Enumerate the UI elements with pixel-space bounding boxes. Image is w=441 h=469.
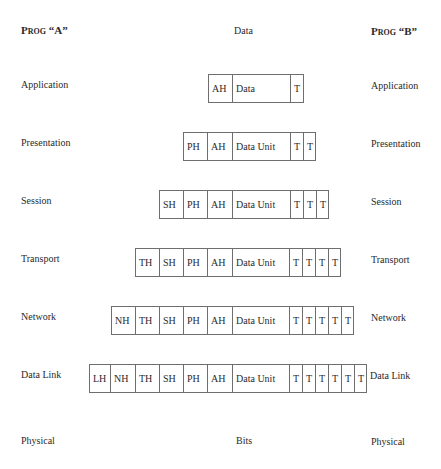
header-cell-th: TH: [135, 364, 159, 393]
left-layer-label-presentation: Presentation: [21, 137, 70, 149]
header-cell-nh: NH: [110, 364, 135, 393]
trailer-cell: T: [290, 190, 303, 219]
left-layer-label-data-link: Data Link: [21, 369, 61, 381]
right-layer-label-transport: Transport: [371, 254, 410, 266]
header-cell-lh: LH: [89, 364, 110, 393]
header-cell-ah: AH: [207, 364, 232, 393]
trailer-cell: T: [303, 190, 316, 219]
header-cell-sh: SH: [159, 248, 183, 277]
prog-a-title: Prog “A”: [21, 24, 68, 36]
trailer-cell: T: [328, 248, 341, 277]
trailer-cell: T: [315, 306, 328, 335]
right-layer-label-data-link: Data Link: [370, 370, 410, 382]
header-cell-ph: PH: [183, 248, 207, 277]
trailer-cell: T: [316, 190, 329, 219]
left-layer-label-transport: Transport: [21, 253, 60, 265]
trailer-cell: T: [315, 248, 328, 277]
header-cell-ph: PH: [183, 306, 207, 335]
left-layer-label-network: Network: [21, 311, 56, 323]
trailer-cell: T: [289, 364, 302, 393]
right-layer-label-presentation: Presentation: [371, 138, 420, 150]
prog-b-title: Prog “B”: [371, 25, 417, 37]
right-layer-label-physical: Physical: [371, 436, 405, 448]
trailer-cell: T: [341, 306, 354, 335]
trailer-cell: T: [290, 132, 303, 161]
header-cell-sh: SH: [159, 306, 183, 335]
header-cell-ph: PH: [183, 190, 207, 219]
header-cell-ah: AH: [207, 306, 232, 335]
bits-caption: Bits: [236, 435, 252, 447]
header-cell-nh: NH: [111, 306, 135, 335]
trailer-cell: T: [290, 74, 304, 103]
right-layer-label-session: Session: [371, 196, 402, 208]
trailer-cell: T: [289, 248, 302, 277]
header-cell-ah: AH: [208, 74, 232, 103]
data-cell: Data Unit: [232, 132, 290, 161]
trailer-cell: T: [354, 364, 367, 393]
right-layer-label-network: Network: [371, 312, 406, 324]
header-cell-sh: SH: [159, 190, 183, 219]
header-cell-sh: SH: [159, 364, 183, 393]
right-layer-label-application: Application: [371, 80, 418, 92]
header-cell-ah: AH: [207, 132, 232, 161]
trailer-cell: T: [289, 306, 302, 335]
data-cell: Data: [232, 74, 290, 103]
trailer-cell: T: [302, 306, 315, 335]
data-cell: Data Unit: [232, 306, 289, 335]
left-layer-label-physical: Physical: [21, 435, 55, 447]
header-cell-th: TH: [135, 248, 159, 277]
data-cell: Data Unit: [232, 248, 289, 277]
data-caption: Data: [234, 25, 253, 37]
trailer-cell: T: [303, 132, 316, 161]
header-cell-ah: AH: [207, 190, 232, 219]
header-cell-th: TH: [135, 306, 159, 335]
trailer-cell: T: [302, 248, 315, 277]
trailer-cell: T: [341, 364, 354, 393]
trailer-cell: T: [302, 364, 315, 393]
trailer-cell: T: [315, 364, 328, 393]
left-layer-label-session: Session: [21, 195, 52, 207]
left-layer-label-application: Application: [21, 79, 68, 91]
header-cell-ph: PH: [183, 364, 207, 393]
data-cell: Data Unit: [232, 190, 290, 219]
data-cell: Data Unit: [232, 364, 289, 393]
header-cell-ph: PH: [183, 132, 207, 161]
header-cell-ah: AH: [207, 248, 232, 277]
trailer-cell: T: [328, 364, 341, 393]
trailer-cell: T: [328, 306, 341, 335]
